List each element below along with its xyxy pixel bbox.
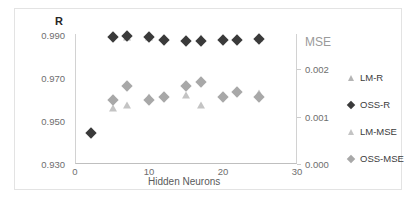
y-axis-right-tick-0.002: 0.002: [305, 64, 345, 75]
data-point-lm-mse-7: [123, 101, 131, 108]
y-axis-right-tickmark-0.000: [297, 164, 301, 165]
legend-item-oss-r[interactable]: OSS-R: [345, 91, 415, 118]
data-point-oss-r-15: [180, 35, 191, 46]
y-axis-left-tick-0.970: 0.970: [29, 73, 65, 84]
data-point-lm-mse-10: [145, 93, 153, 100]
data-point-oss-mse-22: [232, 86, 243, 97]
triangle-icon: [345, 126, 356, 137]
data-point-lm-mse-15: [182, 91, 190, 98]
plot-area: [75, 34, 297, 164]
y-axis-right-tick-0.001: 0.001: [305, 112, 345, 123]
legend-label: LM-MSE: [360, 126, 397, 137]
figure-frame: R MSE Hidden Neurons 0.990 0.970 0.950 0…: [14, 8, 402, 190]
data-point-lm-mse-17: [197, 101, 205, 108]
data-point-oss-mse-5: [107, 94, 118, 105]
y-axis-left-tick-0.990: 0.990: [29, 30, 65, 41]
x-axis-tick-30: 30: [282, 166, 312, 177]
data-point-oss-r-7: [122, 30, 133, 41]
data-point-lm-r-17: [197, 34, 205, 41]
legend-label: OSS-MSE: [360, 153, 404, 164]
data-point-lm-r-10: [145, 34, 153, 41]
data-point-oss-r-5: [107, 31, 118, 42]
data-point-oss-r-10: [144, 31, 155, 42]
x-axis-tick-20: 20: [208, 166, 238, 177]
diamond-icon: [345, 153, 356, 164]
legend-label: OSS-R: [360, 99, 390, 110]
data-point-oss-mse-25: [254, 91, 265, 102]
data-point-oss-r-2: [85, 127, 96, 138]
legend-item-oss-mse[interactable]: OSS-MSE: [345, 145, 415, 172]
data-point-oss-mse-12: [158, 91, 169, 102]
x-axis-tick-0: 0: [60, 166, 90, 177]
data-point-oss-mse-10: [144, 94, 155, 105]
data-point-lm-r-7: [123, 33, 131, 40]
legend-item-lm-r[interactable]: LM-R: [345, 64, 415, 91]
data-point-oss-r-12: [158, 34, 169, 45]
data-point-lm-mse-5: [109, 105, 117, 112]
data-point-oss-mse-15: [180, 80, 191, 91]
data-point-lm-r-25: [255, 35, 263, 42]
diamond-icon: [345, 99, 356, 110]
data-point-oss-mse-17: [195, 77, 206, 88]
y-axis-right-tickmark-0.002: [297, 69, 301, 70]
x-axis-tick-10: 10: [134, 166, 164, 177]
chart-legend: LM-ROSS-RLM-MSEOSS-MSE: [345, 64, 415, 172]
legend-label: LM-R: [360, 72, 383, 83]
y-axis-right-title: MSE: [305, 35, 331, 49]
y-axis-left-tick-0.950: 0.950: [29, 116, 65, 127]
data-point-oss-mse-7: [122, 80, 133, 91]
data-point-oss-r-17: [195, 36, 206, 47]
data-point-lm-mse-25: [255, 90, 263, 97]
y-axis-left-title: R: [55, 15, 63, 27]
y-axis-right-tickmark-0.001: [297, 117, 301, 118]
legend-item-lm-mse[interactable]: LM-MSE: [345, 118, 415, 145]
data-point-oss-r-25: [254, 34, 265, 45]
data-point-oss-r-22: [232, 35, 243, 46]
data-point-oss-r-20: [217, 34, 228, 45]
chart-figure: R MSE Hidden Neurons 0.990 0.970 0.950 0…: [0, 0, 416, 201]
triangle-icon: [345, 72, 356, 83]
data-point-oss-mse-20: [217, 91, 228, 102]
x-axis-title: Hidden Neurons: [148, 176, 220, 187]
